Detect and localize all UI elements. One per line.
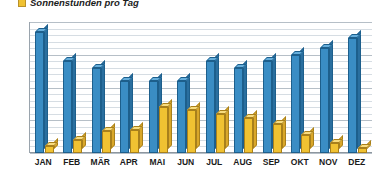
bar-group [230, 22, 259, 153]
bar-blue [177, 81, 186, 153]
gridline-major [30, 153, 372, 154]
bar-front-face [177, 81, 186, 153]
bar-front-face [35, 32, 44, 153]
bar-yellow [187, 110, 196, 153]
bar-front-face [159, 107, 168, 153]
x-axis-tick-label: FEB [58, 155, 87, 169]
bar-front-face [348, 38, 357, 153]
bar-front-face [92, 68, 101, 153]
bar-groups [30, 22, 372, 153]
x-axis-tick-label: MÄR [86, 155, 115, 169]
bar-blue [63, 61, 72, 153]
bar-front-face [130, 130, 139, 153]
bar-front-face [273, 124, 282, 153]
x-axis-tick-label: OKT [286, 155, 315, 169]
x-axis-tick-label: JUL [200, 155, 229, 169]
chart-legend: Sonnenstunden pro Tag [18, 0, 139, 8]
bar-front-face [301, 135, 310, 153]
bar-side-face [196, 102, 200, 149]
bar-side-face [357, 30, 361, 149]
bar-front-face [358, 148, 367, 153]
bar-group [59, 22, 88, 153]
bar-blue [291, 55, 300, 153]
bar-group [87, 22, 116, 153]
bar-blue [206, 61, 215, 153]
bar-yellow [301, 135, 310, 153]
bar-group [315, 22, 344, 153]
bar-front-face [73, 140, 82, 153]
x-axis-tick-label: AUG [229, 155, 258, 169]
bar-blue [92, 68, 101, 153]
x-axis: JANFEBMÄRAPRMAIJUNJULAUGSEPOKTNOVDEZ [29, 155, 371, 169]
bar-yellow [73, 140, 82, 153]
bar-group [30, 22, 59, 153]
bar-front-face [63, 61, 72, 153]
bar-side-face [82, 132, 86, 149]
bar-blue [348, 38, 357, 153]
bar-group [144, 22, 173, 153]
bar-front-face [263, 61, 272, 153]
bar-front-face [234, 68, 243, 153]
bar-blue [35, 32, 44, 153]
bar-yellow [244, 118, 253, 153]
bar-side-face [44, 24, 48, 149]
bar-yellow [358, 148, 367, 153]
bar-yellow [330, 143, 339, 153]
bar-blue [263, 61, 272, 153]
bar-front-face [291, 55, 300, 153]
plot-area [29, 22, 372, 153]
bar-front-face [206, 61, 215, 153]
bar-group [344, 22, 372, 153]
x-axis-tick-label: MAI [143, 155, 172, 169]
bar-front-face [45, 146, 54, 153]
bar-front-face [187, 110, 196, 153]
bar-yellow [216, 114, 225, 153]
bar-blue [149, 81, 158, 153]
x-axis-tick-label: JUN [172, 155, 201, 169]
bar-yellow [159, 107, 168, 153]
bar-front-face [149, 81, 158, 153]
bar-front-face [120, 81, 129, 153]
bar-yellow [102, 131, 111, 153]
bar-group [116, 22, 145, 153]
x-axis-tick-label: APR [115, 155, 144, 169]
bar-group [173, 22, 202, 153]
x-axis-tick-label: NOV [314, 155, 343, 169]
x-axis-tick-label: JAN [29, 155, 58, 169]
bar-group [287, 22, 316, 153]
bar-group [201, 22, 230, 153]
x-axis-tick-label: SEP [257, 155, 286, 169]
x-axis-tick-label: DEZ [343, 155, 372, 169]
bar-front-face [320, 48, 329, 153]
legend-swatch-sonnenstunden [18, 0, 26, 7]
bar-front-face [244, 118, 253, 153]
bar-yellow [45, 146, 54, 153]
legend-label-sonnenstunden: Sonnenstunden pro Tag [30, 0, 139, 8]
bar-blue [320, 48, 329, 153]
bar-side-face [72, 53, 76, 149]
bar-blue [120, 81, 129, 153]
bar-front-face [216, 114, 225, 153]
bar-front-face [102, 131, 111, 153]
bar-yellow [130, 130, 139, 153]
bar-front-face [330, 143, 339, 153]
bar-yellow [273, 124, 282, 153]
bar-side-face [329, 40, 333, 149]
bar-group [258, 22, 287, 153]
bar-blue [234, 68, 243, 153]
